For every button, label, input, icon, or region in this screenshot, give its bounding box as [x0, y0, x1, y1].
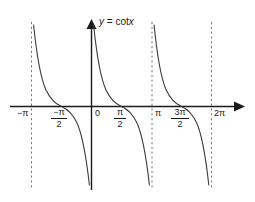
x-tick-text-zero: 0	[95, 108, 100, 118]
fraction-denominator: 2	[112, 119, 128, 129]
fraction-numerator: π	[112, 108, 128, 118]
cotangent-branch-2	[94, 25, 150, 185]
fraction-numerator: 3π	[168, 108, 192, 118]
fraction-denominator: 2	[48, 119, 70, 129]
y-axis-group	[87, 19, 97, 190]
title-y-variable: y	[99, 16, 104, 27]
x-tick-text-pi: π	[155, 108, 161, 118]
pi-symbol: π	[59, 107, 65, 117]
title-equals: =	[107, 16, 113, 27]
x-tick-text-two-pi: 2π	[214, 108, 225, 118]
x-tick-label-two-pi: 2π	[214, 109, 225, 118]
fraction-denominator: 2	[168, 119, 192, 129]
fraction-numerator: −π	[48, 108, 70, 118]
y-axis-arrowhead	[87, 19, 97, 29]
x-tick-label-pi: π	[155, 109, 161, 118]
cotangent-graph-figure: y = cotx −π −π 2 0 π 2 π 3π 2 2π	[0, 0, 255, 202]
x-tick-label-three-pi-over-2: 3π 2	[168, 108, 192, 129]
cotangent-curve-group	[34, 25, 209, 185]
x-axis-arrowhead	[234, 102, 245, 112]
x-tick-label-minus-pi: −π	[17, 109, 28, 118]
x-tick-label-zero: 0	[95, 109, 100, 118]
x-tick-text-minus-pi: −π	[17, 108, 28, 118]
plot-canvas	[0, 0, 255, 202]
cotangent-branch-1	[34, 25, 90, 185]
x-tick-label-pi-over-2: π 2	[112, 108, 128, 129]
x-tick-label-minus-pi-over-2: −π 2	[48, 108, 70, 129]
cotangent-branch-3	[154, 25, 209, 185]
graph-title: y = cotx	[99, 17, 134, 27]
title-x-variable: x	[129, 16, 134, 27]
title-function-name: cot	[115, 16, 128, 27]
